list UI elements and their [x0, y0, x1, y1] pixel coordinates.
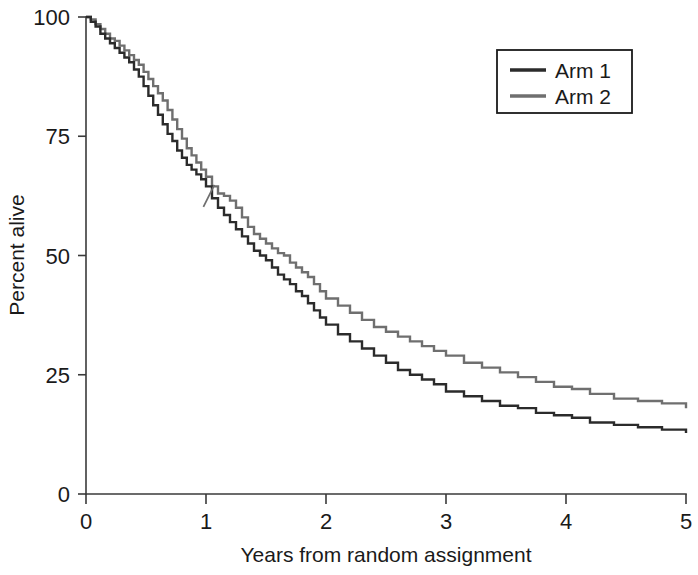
survival-chart-figure: 100 75 50 25 0 0 1 2 3 4 5 Years from ra…	[0, 0, 698, 575]
chart-legend: Arm 1 Arm 2	[497, 50, 632, 113]
y-axis-ticks	[78, 17, 86, 494]
x-axis-title: Years from random assignment	[240, 543, 531, 566]
legend-label-arm-1: Arm 1	[555, 59, 611, 82]
x-tick-label-2: 2	[320, 509, 332, 534]
y-axis-title: Percent alive	[5, 194, 28, 315]
y-tick-label-75: 75	[46, 124, 70, 149]
x-tick-label-0: 0	[80, 509, 92, 534]
y-axis-tick-labels: 100 75 50 25 0	[33, 5, 70, 507]
x-tick-label-3: 3	[440, 509, 452, 534]
y-tick-label-50: 50	[46, 244, 70, 269]
x-axis-tick-labels: 0 1 2 3 4 5	[80, 509, 692, 534]
x-tick-label-5: 5	[680, 509, 692, 534]
y-tick-label-100: 100	[33, 5, 70, 30]
x-axis-ticks	[86, 494, 686, 504]
legend-label-arm-2: Arm 2	[555, 85, 611, 108]
y-tick-label-25: 25	[46, 363, 70, 388]
x-tick-label-4: 4	[560, 509, 572, 534]
y-tick-label-0: 0	[58, 482, 70, 507]
x-tick-label-1: 1	[200, 509, 212, 534]
kaplan-meier-plot: 100 75 50 25 0 0 1 2 3 4 5 Years from ra…	[0, 0, 698, 575]
